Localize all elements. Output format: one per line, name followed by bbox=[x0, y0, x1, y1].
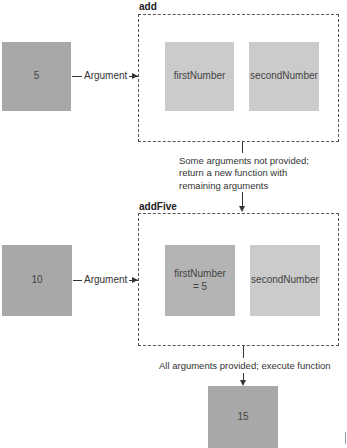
input-value: 5 bbox=[34, 70, 40, 83]
param-label: firstNumber bbox=[174, 268, 226, 281]
connector-line bbox=[242, 192, 243, 207]
connector-line bbox=[243, 346, 244, 358]
input-value: 10 bbox=[31, 274, 42, 287]
function-name-add: add bbox=[139, 1, 157, 12]
param-box-secondNumber: secondNumber bbox=[249, 42, 319, 111]
edge-mark bbox=[345, 432, 346, 444]
transition-text-1: Some arguments not provided; return a ne… bbox=[179, 155, 309, 192]
transition-line: Some arguments not provided; bbox=[179, 155, 309, 167]
param-label: secondNumber bbox=[251, 274, 319, 287]
input-box-5: 5 bbox=[2, 42, 71, 111]
argument-label: Argument bbox=[82, 70, 129, 81]
param-box-secondNumber: secondNumber bbox=[250, 245, 320, 316]
function-name-addFive: addFive bbox=[139, 201, 177, 212]
connector-line bbox=[242, 142, 243, 153]
transition-line: return a new function with bbox=[179, 167, 309, 179]
param-value: = 5 bbox=[193, 281, 207, 294]
result-box: 15 bbox=[208, 386, 278, 448]
param-label: secondNumber bbox=[250, 70, 318, 83]
transition-text-2: All arguments provided; execute function bbox=[159, 360, 331, 372]
transition-line: remaining arguments bbox=[179, 180, 309, 192]
param-box-firstNumber: firstNumber bbox=[165, 42, 234, 111]
arrow-right-icon bbox=[132, 277, 138, 283]
arrow-down-icon bbox=[239, 206, 245, 212]
param-box-firstNumber-bound: firstNumber = 5 bbox=[165, 245, 235, 316]
param-label: firstNumber bbox=[174, 70, 226, 83]
result-value: 15 bbox=[237, 411, 248, 424]
input-box-10: 10 bbox=[2, 245, 72, 316]
argument-label: Argument bbox=[82, 274, 129, 285]
